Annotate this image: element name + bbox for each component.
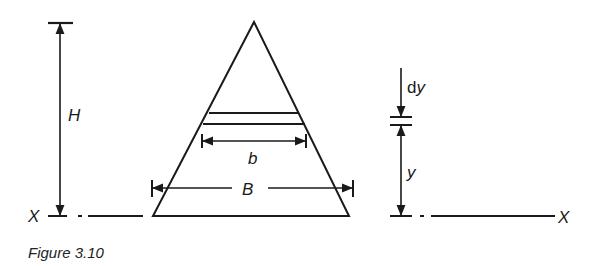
b-label: b <box>248 149 257 168</box>
B-label: B <box>242 180 253 199</box>
triangle-diagram: b B H X dy y X Figure 3.10 <box>0 0 597 266</box>
axis-x-left-label: X <box>27 207 40 226</box>
H-label: H <box>68 106 81 125</box>
b-dimension <box>202 134 306 148</box>
figure-caption: Figure 3.10 <box>28 244 105 261</box>
y-label: y <box>406 163 417 182</box>
dy-label: dy <box>407 78 426 97</box>
axis-x-right-label: X <box>557 208 570 227</box>
